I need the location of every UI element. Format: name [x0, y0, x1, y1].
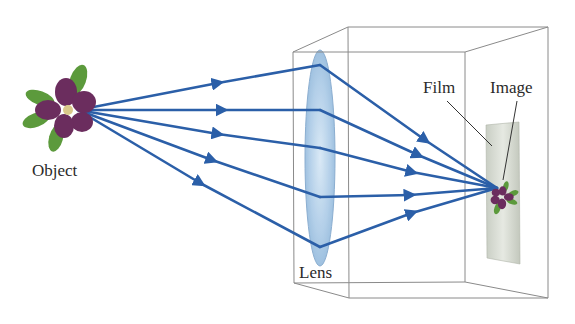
- refracted-rays: [320, 65, 497, 247]
- box-edge-top-left: [293, 27, 348, 52]
- film-label: Film: [423, 78, 455, 97]
- incident-rays: [78, 65, 320, 247]
- object-label: Object: [32, 161, 78, 180]
- box-edge-bottom-right: [465, 282, 548, 298]
- ray-4-incident: [78, 110, 212, 160]
- object-flower-icon: [20, 62, 96, 153]
- ray-4-incident-b: [212, 160, 320, 197]
- image-label: Image: [490, 78, 532, 97]
- ray-5-incident-b: [200, 183, 320, 247]
- ray-1-incident: [78, 83, 218, 110]
- lens: [305, 50, 335, 266]
- lens-label: Lens: [299, 263, 332, 282]
- box-edge-bottom-left: [294, 283, 349, 298]
- ray-1-refracted: [320, 65, 425, 140]
- film-leader-line: [447, 101, 492, 146]
- camera-optics-diagram: Object Lens Film Image: [0, 0, 575, 324]
- box-edge-top-right: [465, 27, 548, 52]
- ray-1-incident-b: [218, 65, 320, 83]
- ray-2-refracted-b: [418, 155, 497, 188]
- ray-5-refracted: [320, 213, 412, 247]
